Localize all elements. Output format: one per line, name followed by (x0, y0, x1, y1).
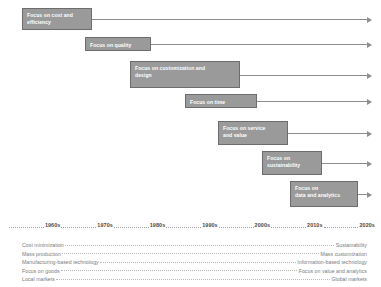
decade-label: 1970s (97, 222, 113, 228)
attributes-list: Cost minimizationSustainabilityMass prod… (22, 242, 367, 285)
decade-axis: 1960s1970s1980s1990s2000s2010s2020s (8, 220, 375, 230)
attribute-right-label: Information-based technology (297, 259, 367, 265)
attribute-dotted-leader (100, 261, 295, 263)
phase-box: Focus on sustainability (262, 151, 322, 175)
attribute-right-label: Mass customization (321, 251, 367, 257)
attribute-row: Mass productionMass customization (22, 251, 367, 260)
attribute-right-label: Global markets (331, 276, 367, 282)
attribute-dotted-leader (61, 269, 297, 271)
attribute-dotted-leader (62, 252, 319, 254)
phase-box: Focus on cost and efficiency (22, 8, 92, 30)
decade-axis-leader (324, 226, 359, 228)
phase-arrow-head (367, 131, 372, 137)
attribute-dotted-leader (56, 278, 329, 280)
attribute-left-label: Manufacturing-based technology (22, 259, 99, 265)
decade-label: 1980s (150, 222, 166, 228)
phase-box: Focus on time (185, 94, 257, 108)
attribute-row: Manufacturing-based technologyInformatio… (22, 259, 367, 268)
attribute-row: Cost minimizationSustainability (22, 242, 367, 251)
phase-arrow-line (288, 133, 367, 134)
phase-arrow-head (367, 192, 372, 198)
attribute-left-label: Mass production (22, 251, 61, 257)
decade-label: 1960s (45, 222, 61, 228)
decade-axis-leader (61, 226, 96, 228)
phase-arrow-line (151, 44, 367, 45)
phase-arrow-line (257, 101, 367, 102)
timeline-diagram: Focus on cost and efficiencyFocus on qua… (0, 0, 381, 287)
phase-box: Focus on data and analytics (290, 181, 358, 207)
phase-arrow-head (367, 42, 372, 48)
decade-label: 2010s (307, 222, 323, 228)
attribute-dotted-leader (65, 244, 334, 246)
decade-axis-leader (271, 226, 306, 228)
attribute-row: Focus on goodsFocus on value and analyti… (22, 268, 367, 277)
attribute-row: Local marketsGlobal markets (22, 276, 367, 285)
attribute-left-label: Focus on goods (22, 268, 60, 274)
attribute-left-label: Cost minimization (22, 242, 64, 248)
phase-box: Focus on quality (85, 37, 151, 51)
decade-axis-leader (114, 226, 149, 228)
decade-label: 1990s (202, 222, 218, 228)
decade-axis-leader (166, 226, 201, 228)
phase-arrow-head (367, 17, 372, 23)
decade-axis-leader (219, 226, 254, 228)
phase-box: Focus on service and value (218, 121, 288, 145)
decade-label: 2020s (359, 222, 375, 228)
phase-arrow-head (367, 73, 372, 79)
decade-axis-leader (9, 226, 44, 228)
phase-arrow-head (367, 161, 372, 167)
phase-box: Focus on customization and design (130, 61, 240, 88)
attribute-right-label: Sustainability (336, 242, 367, 248)
phase-arrow-line (240, 75, 367, 76)
attribute-right-label: Focus on value and analytics (299, 268, 367, 274)
phase-arrow-head (367, 99, 372, 105)
phase-arrow-line (322, 163, 367, 164)
decade-label: 2000s (255, 222, 271, 228)
phase-arrow-line (92, 19, 367, 20)
attribute-left-label: Local markets (22, 276, 55, 282)
phase-arrow-line (358, 194, 367, 195)
